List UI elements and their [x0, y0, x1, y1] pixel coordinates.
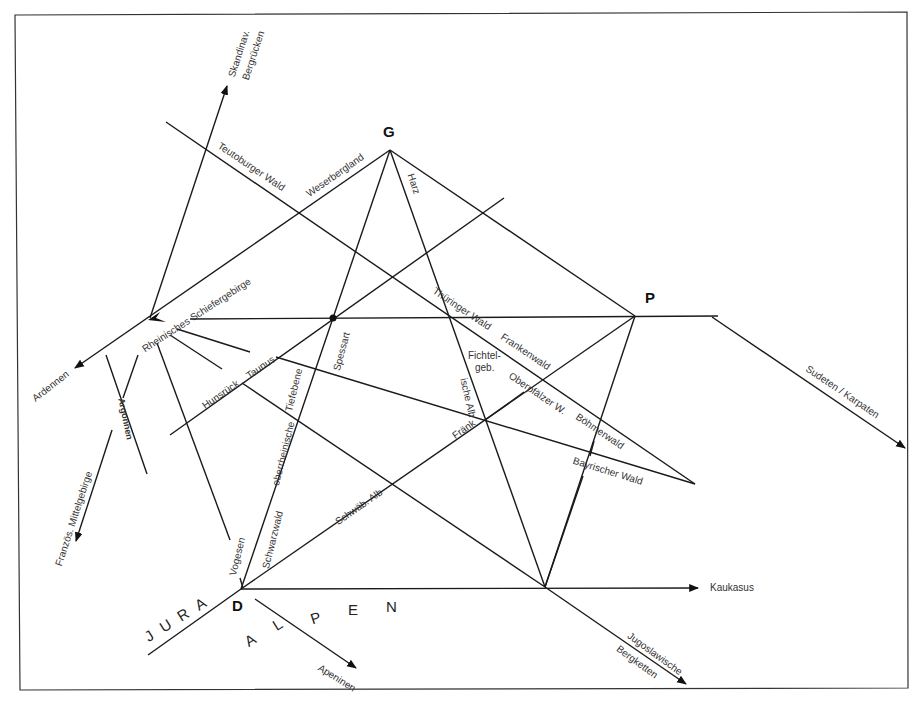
fraenk-stub: [485, 392, 524, 420]
label-alpen-p: P: [309, 608, 331, 625]
vogesen-line: [157, 343, 230, 540]
label-fichtel1: Fichtel-: [468, 350, 501, 361]
p-d-line: [241, 316, 635, 589]
g-p-line: [390, 150, 635, 316]
sudeten-arrow: [712, 317, 905, 448]
apeninen-arrow: [255, 599, 356, 668]
node-g-label: G: [383, 126, 395, 137]
kaukasus-arrow: [241, 588, 698, 589]
label-alpen-n: N: [386, 601, 407, 612]
label-alpen-e: E: [348, 604, 368, 615]
bayrisch-lower-line: [545, 476, 583, 587]
skandinav-arrow: [150, 86, 227, 318]
node-p-label: P: [645, 292, 655, 303]
mountain-lineament-diagram: [0, 0, 923, 706]
harz-line: [390, 150, 545, 587]
jugoslaw-arrow: [545, 587, 686, 684]
label-fichtel2: geb.: [475, 362, 494, 373]
label-kaukasus: Kaukasus: [710, 582, 754, 593]
rheinisch-taunus-line: [177, 329, 250, 352]
argonnen-short-line: [123, 355, 138, 398]
spessart-dot: [330, 315, 337, 322]
node-d-label: D: [232, 600, 243, 611]
